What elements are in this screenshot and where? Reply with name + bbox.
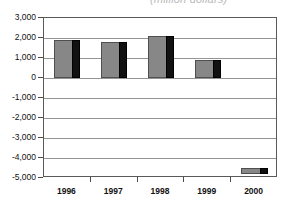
y-axis-labels: 3,0002,0001,0000-1,000-2,000-3,000-4,000… [0,10,36,185]
gridline [44,98,276,99]
chart-subtitle-clip: (million dollars) [150,0,286,7]
chart-subtitle: (million dollars) [150,0,227,5]
bar-face [101,42,120,78]
plot-area [43,17,277,177]
x-axis-tick-mark [137,177,138,182]
x-axis-labels: 19961997199819992000 [43,186,277,200]
y-axis-tick-mark [38,137,43,138]
bar [101,42,127,78]
y-axis-tick-label: 1,000 [0,53,36,62]
y-axis-tick-label: -4,000 [0,153,36,162]
y-axis-tick-mark [38,77,43,78]
y-axis-tick-mark [38,97,43,98]
bar [54,40,80,78]
bar-side-shadow [72,40,80,78]
bar-side-shadow [119,42,127,78]
y-axis-tick-mark [38,17,43,18]
x-axis-tick-mark [230,177,231,182]
bar-side-shadow [213,60,221,78]
bar-face [241,168,260,174]
x-axis-ticks [43,177,277,182]
x-axis-tick-mark [90,177,91,182]
y-axis-tick-mark [38,117,43,118]
y-axis-tick-label: -5,000 [0,173,36,182]
y-axis-tick-label: -1,000 [0,93,36,102]
bar-side-shadow [260,168,268,174]
bar-face [195,60,214,78]
y-axis-tick-label: 0 [0,73,36,82]
y-axis-tick-mark [38,157,43,158]
bar-face [54,40,73,78]
gridline [44,78,276,79]
x-axis-tick-label: 1997 [90,186,137,197]
y-axis-tick-label: -3,000 [0,133,36,142]
y-axis-tick-mark [38,57,43,58]
bar [195,60,221,78]
bar-side-shadow [166,36,174,78]
x-axis-tick-label: 1996 [43,186,90,197]
x-axis-tick-label: 1999 [183,186,230,197]
y-axis-tick-mark [38,177,43,178]
gridline [44,118,276,119]
y-axis-tick-mark [38,37,43,38]
bar [148,36,174,78]
y-axis-tick-label: 2,000 [0,33,36,42]
bar-chart: (million dollars) 3,0002,0001,0000-1,000… [0,0,286,214]
x-axis-tick-label: 1998 [137,186,184,197]
bar-face [148,36,167,78]
bar [241,168,267,174]
x-axis-tick-mark [183,177,184,182]
x-axis-tick-label: 2000 [230,186,277,197]
gridline [44,138,276,139]
gridline [44,158,276,159]
y-axis-tick-label: 3,000 [0,13,36,22]
y-axis-tick-label: -2,000 [0,113,36,122]
